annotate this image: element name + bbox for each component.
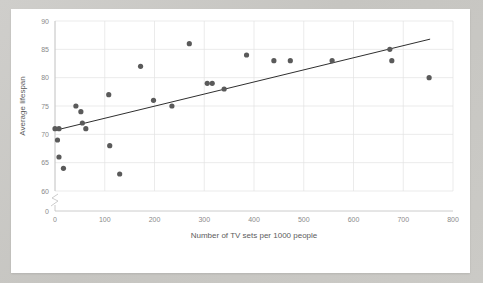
x-axis-tick-label: 100 [99,216,111,223]
y-axis-title: Average lifespan [18,76,27,135]
x-axis-tick-label: 500 [298,216,310,223]
x-axis-tick-label: 200 [149,216,161,223]
y-axis-break-label: 0 [45,208,49,215]
data-point[interactable] [73,103,78,108]
data-point[interactable] [56,126,61,131]
scatter-chart: 6065707580859000100200300400500600700800… [11,9,470,273]
data-point[interactable] [271,58,276,63]
data-point[interactable] [107,143,112,148]
x-axis-tick-label: 700 [397,216,409,223]
data-point[interactable] [117,171,122,176]
data-point[interactable] [61,166,66,171]
chart-card: 6065707580859000100200300400500600700800… [11,9,470,273]
x-axis-tick-label: 600 [348,216,360,223]
data-point[interactable] [56,154,61,159]
chart-canvas: 6065707580859000100200300400500600700800… [11,9,470,273]
data-point[interactable] [138,64,143,69]
data-point[interactable] [106,92,111,97]
data-point[interactable] [78,109,83,114]
y-axis-tick-label: 90 [41,18,49,25]
data-point[interactable] [210,81,215,86]
data-point[interactable] [330,58,335,63]
x-axis-tick-label: 0 [53,216,57,223]
data-point[interactable] [80,120,85,125]
data-point[interactable] [222,86,227,91]
data-point[interactable] [205,81,210,86]
axis-break-icon [51,194,58,206]
y-axis-tick-label: 70 [41,131,49,138]
y-axis-tick-label: 80 [41,74,49,81]
trend-line [55,39,430,130]
data-point[interactable] [387,47,392,52]
data-point[interactable] [169,103,174,108]
x-axis-tick-label: 800 [447,216,459,223]
data-point[interactable] [244,52,249,57]
y-axis-tick-label: 65 [41,159,49,166]
data-point[interactable] [187,41,192,46]
y-axis-tick-label: 85 [41,46,49,53]
y-axis-tick-label: 75 [41,103,49,110]
data-point[interactable] [83,126,88,131]
data-point[interactable] [55,137,60,142]
x-axis-tick-label: 400 [248,216,260,223]
data-point[interactable] [427,75,432,80]
x-axis-title: Number of TV sets per 1000 people [191,231,318,240]
data-point[interactable] [389,58,394,63]
data-point[interactable] [151,98,156,103]
data-point[interactable] [288,58,293,63]
x-axis-tick-label: 300 [198,216,210,223]
y-axis-tick-label: 60 [41,188,49,195]
